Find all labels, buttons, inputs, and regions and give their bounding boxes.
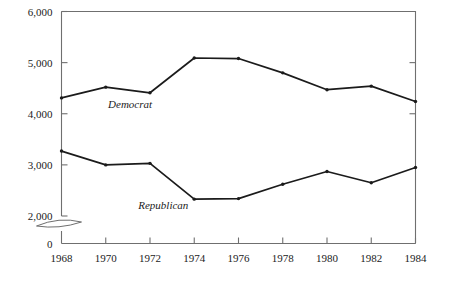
line-chart: 02,0003,0004,0005,0006,000 1968197019721… — [0, 0, 449, 281]
y-axis-tick-label: 0 — [47, 238, 53, 250]
data-point — [281, 71, 284, 74]
x-axis-tick-label: 1982 — [360, 252, 382, 264]
y-axis-tick-label: 6,000 — [28, 6, 53, 18]
x-axis-tick-labels: 196819701972197419761978198019821984 — [51, 252, 428, 264]
y-axis-tick-label: 3,000 — [28, 159, 53, 171]
data-point — [414, 100, 417, 103]
series-label-republican: Republican — [137, 199, 189, 211]
data-point — [104, 163, 107, 166]
data-point — [325, 88, 328, 91]
data-point — [60, 149, 63, 152]
x-axis-tick-label: 1976 — [228, 252, 251, 264]
y-axis-tick-label: 4,000 — [28, 108, 53, 120]
data-point — [237, 197, 240, 200]
data-point — [104, 85, 107, 88]
chart-container: 02,0003,0004,0005,0006,000 1968197019721… — [0, 0, 449, 281]
data-point — [148, 162, 151, 165]
x-axis-tick-label: 1970 — [95, 252, 118, 264]
chart-background — [0, 0, 449, 281]
data-point — [325, 170, 328, 173]
data-point — [370, 181, 373, 184]
data-point — [148, 91, 151, 94]
x-axis-tick-label: 1972 — [139, 252, 161, 264]
y-axis-tick-label: 2,000 — [28, 210, 53, 222]
data-point — [237, 57, 240, 60]
data-point — [414, 166, 417, 169]
data-point — [370, 84, 373, 87]
x-axis-tick-label: 1968 — [51, 252, 74, 264]
series-label-democrat: Democrat — [107, 98, 153, 110]
x-axis-tick-label: 1980 — [316, 252, 339, 264]
data-point — [60, 96, 63, 99]
data-point — [193, 56, 196, 59]
data-point — [193, 197, 196, 200]
data-point — [281, 183, 284, 186]
y-axis-tick-label: 5,000 — [28, 57, 53, 69]
x-axis-tick-label: 1984 — [405, 252, 428, 264]
x-axis-tick-label: 1974 — [183, 252, 206, 264]
x-axis-tick-label: 1978 — [272, 252, 295, 264]
